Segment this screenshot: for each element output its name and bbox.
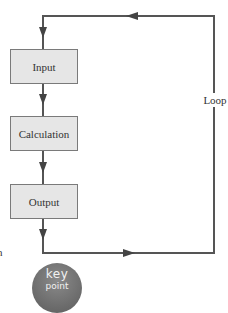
output-box: Output xyxy=(10,184,78,219)
arrow-down-icon xyxy=(39,162,47,173)
arrow-right-icon xyxy=(123,249,135,257)
calculation-box-label: Calculation xyxy=(19,128,70,140)
arrow-down-icon xyxy=(39,94,47,105)
loop-line-right xyxy=(213,15,215,254)
input-box: Input xyxy=(10,49,78,84)
key-badge-word: key xyxy=(32,268,82,280)
output-box-label: Output xyxy=(29,196,60,208)
key-badge-sub: point xyxy=(32,281,82,291)
loop-label: Loop xyxy=(202,93,228,107)
arrow-down-icon xyxy=(39,27,47,38)
calculation-box: Calculation xyxy=(10,116,78,151)
arrow-left-icon xyxy=(126,12,138,20)
arrow-down-icon xyxy=(39,229,47,240)
cropped-margin-text: n xyxy=(0,246,3,258)
input-box-label: Input xyxy=(32,61,55,73)
key-point-badge: key point xyxy=(32,263,82,313)
